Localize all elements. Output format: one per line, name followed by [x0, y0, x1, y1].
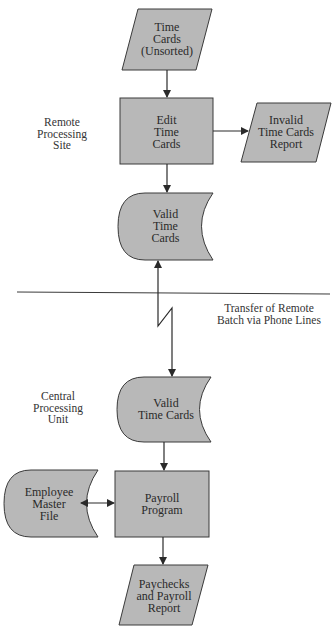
label-line: Remote	[22, 117, 102, 129]
valid-time-cards-remote-label: Valid Time Cards	[128, 208, 203, 244]
edit-time-cards-label: Edit Time Cards	[120, 114, 213, 150]
paychecks-report-label: Paychecks and Payroll Report	[123, 578, 205, 614]
label-line: Cards	[128, 232, 203, 244]
label-line: Transfer of Remote	[210, 303, 328, 315]
communication-link	[158, 261, 172, 376]
valid-time-cards-central-label: Valid Time Cards	[122, 397, 210, 421]
employee-master-file-label: Employee Master File	[10, 486, 88, 522]
label-line: Report	[245, 138, 327, 150]
label-line: Batch via Phone Lines	[210, 315, 328, 327]
time-cards-unsorted-label: Time Cards (Unsorted)	[127, 21, 207, 57]
payroll-program-label: Payroll Program	[115, 492, 209, 516]
section-divider	[17, 292, 330, 294]
central-unit-label: Central Processing Unit	[18, 391, 98, 426]
label-line: Cards	[120, 138, 213, 150]
label-line: (Unsorted)	[127, 45, 207, 57]
transfer-label: Transfer of Remote Batch via Phone Lines	[210, 303, 328, 326]
label-line: Program	[115, 504, 209, 516]
label-line: Report	[123, 602, 205, 614]
invalid-report-label: Invalid Time Cards Report	[245, 114, 327, 150]
label-line: Site	[22, 140, 102, 152]
label-line: File	[10, 510, 88, 522]
remote-site-label: Remote Processing Site	[22, 117, 102, 152]
label-line: Unit	[18, 414, 98, 426]
label-line: Central	[18, 391, 98, 403]
label-line: Time Cards	[122, 409, 210, 421]
